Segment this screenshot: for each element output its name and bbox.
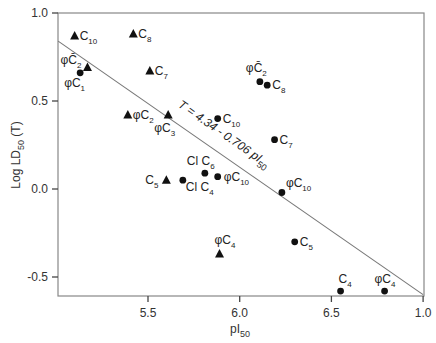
triangle-point: φC3 bbox=[154, 110, 175, 138]
triangle-marker-icon bbox=[70, 31, 79, 40]
circle-marker-icon bbox=[264, 82, 271, 89]
circle-marker-icon bbox=[381, 288, 388, 295]
triangle-marker-icon bbox=[145, 66, 154, 75]
point-label: φC10 bbox=[224, 170, 250, 187]
point-label: C7 bbox=[155, 64, 169, 81]
circle-marker-icon bbox=[337, 288, 344, 295]
x-tick-label: 5.5 bbox=[140, 306, 157, 320]
point-label: C8 bbox=[138, 27, 152, 44]
x-axis-title: pI50 bbox=[230, 322, 250, 339]
point-label: φC4 bbox=[215, 233, 236, 250]
point-label: C5 bbox=[145, 173, 159, 190]
point-label: φC1 bbox=[64, 76, 85, 93]
triangle-point: φC4 bbox=[215, 233, 236, 258]
circle-marker-icon bbox=[291, 238, 298, 245]
point-label: Cl C6 bbox=[187, 154, 215, 171]
circle-point: φC10 bbox=[278, 176, 311, 196]
point-label: φC10 bbox=[286, 176, 312, 193]
point-label: φC4 bbox=[375, 272, 396, 289]
point-label: C5 bbox=[300, 235, 314, 252]
triangle-marker-icon bbox=[129, 29, 138, 37]
circle-marker-icon bbox=[214, 115, 221, 122]
triangle-point: φC2 bbox=[123, 108, 154, 125]
point-label: φC2 bbox=[133, 108, 154, 125]
regression-line: T = 4.34 - 0.706 pI50 bbox=[58, 41, 423, 294]
y-axis-title: Log LD50 (T) bbox=[9, 121, 26, 188]
x-tick-label: 1.0 bbox=[415, 306, 432, 320]
circle-point: Cl C6 bbox=[187, 154, 215, 176]
triangle-point: C8 bbox=[129, 27, 152, 44]
point-label: φC3 bbox=[154, 121, 175, 138]
circle-point: C4 bbox=[337, 272, 352, 294]
x-tick-label: 6.5 bbox=[323, 306, 340, 320]
circle-point: C5 bbox=[291, 235, 313, 252]
triangle-point: C10 bbox=[70, 29, 98, 46]
point-label: C8 bbox=[272, 78, 286, 95]
circle-marker-icon bbox=[256, 78, 263, 85]
circle-point: φC10 bbox=[214, 170, 249, 187]
circle-point: C7 bbox=[271, 133, 293, 150]
y-tick-label: 0.0 bbox=[31, 182, 48, 196]
circle-marker-icon bbox=[271, 136, 278, 143]
point-label: C4 bbox=[339, 272, 353, 289]
triangle-marker-icon bbox=[215, 249, 224, 258]
circle-marker-icon bbox=[201, 170, 208, 177]
triangle-marker-icon bbox=[164, 110, 173, 119]
point-label: φC̄2 bbox=[246, 61, 267, 78]
circle-point: C8 bbox=[264, 78, 286, 95]
circle-point: φC4 bbox=[375, 272, 396, 294]
y-tick-label: -0.5 bbox=[27, 270, 48, 284]
triangle-point: C7 bbox=[145, 64, 168, 81]
circle-marker-icon bbox=[278, 189, 285, 196]
data-points: C10C8φC̄2C7φC2φC3C5φC4φC1C10φC̄2C8C7Cl C… bbox=[61, 27, 396, 294]
circle-marker-icon bbox=[214, 173, 221, 180]
triangle-point: C5 bbox=[145, 173, 171, 190]
x-tick-label: 6.0 bbox=[231, 306, 248, 320]
y-tick-label: 0.5 bbox=[31, 94, 48, 108]
point-label: C10 bbox=[80, 29, 98, 46]
point-label: C7 bbox=[280, 133, 294, 150]
circle-point: Cl C4 bbox=[179, 177, 214, 197]
circle-point: φC1 bbox=[64, 69, 85, 92]
axis-ticks: 1.00.50.0-0.55.56.06.51.0 bbox=[27, 6, 431, 320]
triangle-marker-icon bbox=[162, 175, 171, 184]
y-tick-label: 1.0 bbox=[31, 6, 48, 20]
circle-point: φC̄2 bbox=[246, 61, 267, 85]
triangle-marker-icon bbox=[123, 110, 132, 119]
plot-frame bbox=[58, 13, 424, 296]
scatter-chart: 1.00.50.0-0.55.56.06.51.0 T = 4.34 - 0.7… bbox=[0, 0, 436, 343]
point-label: Cl C4 bbox=[186, 180, 214, 197]
